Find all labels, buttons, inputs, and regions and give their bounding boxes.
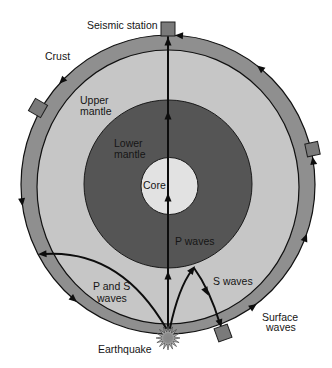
upper-mantle-label-line2: mantle [80, 105, 112, 117]
surface-waves-label-line2: waves [265, 321, 296, 333]
station-icon [161, 22, 175, 36]
p-and-s-waves-label-line1: P and S [93, 280, 130, 292]
seismic-station-label: Seismic station [87, 19, 158, 31]
earthquake-icon [156, 326, 180, 350]
core-label: Core [143, 179, 166, 191]
station-icon [214, 324, 232, 342]
lower-mantle-label-line2: mantle [114, 148, 146, 160]
earth-seismic-wave-diagram: Seismic station Crust Upper mantle Lower… [0, 0, 332, 368]
earthquake-label: Earthquake [98, 343, 152, 355]
p-waves-label: P waves [175, 235, 215, 247]
station-icon [305, 141, 320, 156]
crust-label: Crust [45, 50, 70, 62]
p-and-s-waves-label-line2: waves [96, 292, 127, 304]
s-waves-label: S waves [213, 275, 253, 287]
